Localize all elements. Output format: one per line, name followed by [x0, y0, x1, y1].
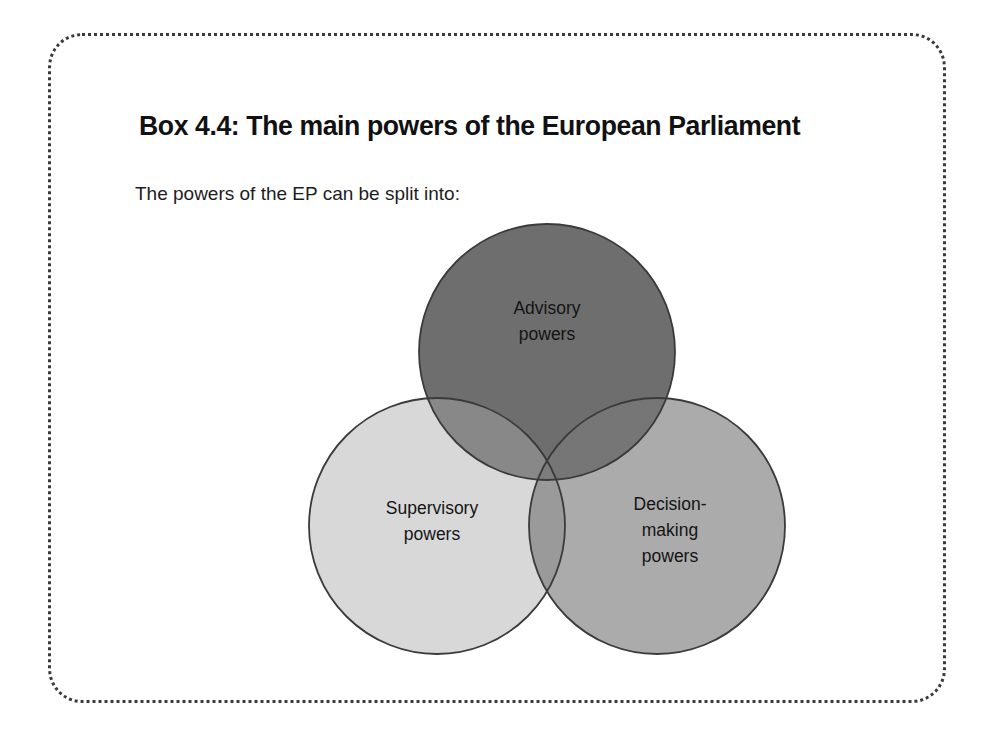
venn-diagram: Advisory powers Supervisory powers Decis…: [297, 214, 797, 666]
page-title: Box 4.4: The main powers of the European…: [139, 111, 957, 142]
venn-label-decision-line-3: powers: [642, 546, 699, 566]
venn-label-decision-line-2: making: [642, 520, 698, 540]
venn-label-decision-making: Decision- making powers: [634, 494, 707, 566]
venn-label-supervisory-line-1: Supervisory: [386, 498, 479, 518]
box-frame: Box 4.4: The main powers of the European…: [48, 33, 946, 703]
intro-text: The powers of the EP can be split into:: [135, 183, 460, 206]
venn-label-advisory-line-2: powers: [519, 324, 576, 344]
venn-label-supervisory-line-2: powers: [404, 524, 461, 544]
venn-label-decision-line-1: Decision-: [634, 494, 707, 514]
venn-label-advisory-line-1: Advisory: [513, 298, 580, 318]
